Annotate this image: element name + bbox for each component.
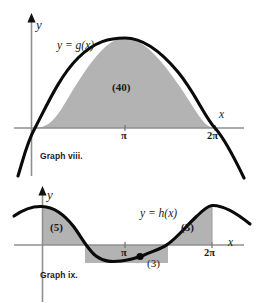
two-panel-graph-figure: y = g(x) (40) x y π 2π Graph viii. y = h… (0, 0, 264, 303)
caption-graph-ix: Graph ix. (40, 271, 78, 280)
graph-ix-plot (0, 180, 264, 303)
area-label-5-right: (5) (181, 222, 194, 233)
caption-graph-viii: Graph viii. (40, 152, 83, 161)
curve-label-h: y = h(x) (140, 208, 177, 220)
y-axis-arrowhead-ix (38, 186, 46, 196)
x-tick-label-2pi-viii: 2π (207, 131, 218, 142)
point-marker-3 (136, 253, 143, 260)
shaded-area-5-left (42, 207, 85, 245)
area-label-40: (40) (112, 82, 130, 93)
y-axis-label-viii: y (36, 18, 42, 31)
x-tick-label-2pi-ix: 2π (204, 248, 215, 259)
x-tick-label-pi-ix: π (121, 248, 127, 259)
y-axis-label-ix: y (47, 188, 53, 201)
x-axis-label-ix: x (228, 237, 233, 249)
curve-label-g: y = g(x) (57, 40, 94, 52)
y-axis-arrowhead-viii (27, 13, 35, 23)
point-label-3: (3) (147, 258, 160, 269)
area-label-5-left: (5) (50, 222, 63, 233)
x-axis-label-viii: x (219, 109, 224, 121)
x-tick-label-pi-viii: π (121, 131, 127, 142)
